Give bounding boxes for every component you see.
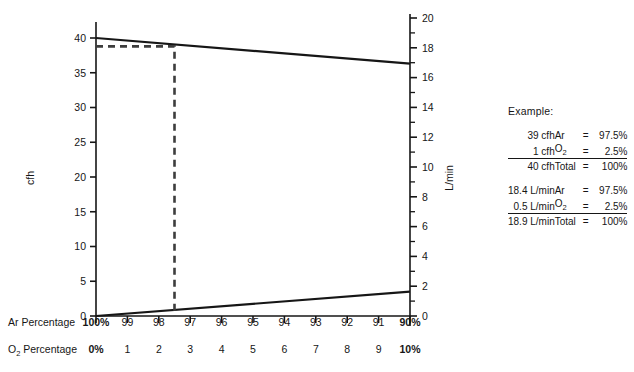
example-percent-sign-cell: % <box>619 142 628 158</box>
flow-chart-figure: 051015202530354002468101214161820 cfhL/m… <box>0 0 634 372</box>
axis-titles: cfhL/min <box>24 165 455 191</box>
example-gas-cell: Ar <box>555 129 583 142</box>
right-tick-label: 14 <box>422 101 434 113</box>
example-total-row: 18.9 L/minTotal=100% <box>508 214 627 229</box>
example-equals-cell: = <box>583 184 589 197</box>
right-tick-label: 4 <box>422 250 428 262</box>
example-gas-cell: Ar <box>555 184 583 197</box>
series-line-oxygen-flow <box>96 292 410 316</box>
example-equals-cell: = <box>583 197 589 213</box>
example-equals-cell: = <box>583 142 589 158</box>
example-value-cell: 2.5 <box>589 197 619 213</box>
ar-percentage-tick-90: 90% <box>390 316 430 328</box>
example-row: 0.5 L/minO2=2.5% <box>508 197 627 213</box>
right-tick-label: 16 <box>422 71 434 83</box>
left-axis-title: cfh <box>24 171 36 185</box>
left-tick-label: 10 <box>74 240 86 252</box>
right-axis-title: L/min <box>443 165 455 191</box>
example-amount-cell: 40 cfh <box>508 159 555 174</box>
series-line-argon-flow <box>96 38 410 64</box>
example-title: Example: <box>508 105 630 117</box>
example-gas-cell: Total <box>555 214 583 229</box>
example-total-row: 40 cfhTotal=100% <box>508 159 627 174</box>
left-tick-label: 40 <box>74 32 86 44</box>
example-amount-cell: 1 cfh <box>508 142 555 158</box>
example-legend: Example: 39 cfhAr=97.5%1 cfhO2=2.5%40 cf… <box>508 105 630 229</box>
left-tick-label: 20 <box>74 171 86 183</box>
example-percent-sign-cell: % <box>619 214 628 229</box>
left-tick-label: 25 <box>74 136 86 148</box>
example-equals-cell: = <box>583 214 589 229</box>
example-percent-sign-cell: % <box>619 129 628 142</box>
example-amount-cell: 18.4 L/min <box>508 184 555 197</box>
left-tick-label: 15 <box>74 206 86 218</box>
example-value-cell: 97.5 <box>589 129 619 142</box>
o2-percentage-tick-row: 0%12345678910% <box>0 343 634 359</box>
example-percent-sign-cell: % <box>619 159 628 174</box>
example-value-cell: 100 <box>589 214 619 229</box>
example-equals-cell: = <box>583 159 589 174</box>
guide-annotation <box>96 46 175 316</box>
data-series-lines <box>96 38 410 316</box>
example-percent-sign-cell: % <box>619 184 628 197</box>
o2-percentage-tick-10: 10% <box>390 343 430 355</box>
example-percent-sign-cell: % <box>619 197 628 213</box>
example-equals-cell: = <box>583 129 589 142</box>
ar-percentage-tick-row: 100%99989796959493929190% <box>0 316 634 332</box>
example-block-spacer <box>508 173 627 184</box>
right-tick-label: 2 <box>422 280 428 292</box>
example-row: 39 cfhAr=97.5% <box>508 129 627 142</box>
example-value-cell: 97.5 <box>589 184 619 197</box>
right-tick-label: 18 <box>422 42 434 54</box>
example-table: 39 cfhAr=97.5%1 cfhO2=2.5%40 cfhTotal=10… <box>508 129 627 229</box>
example-row: 1 cfhO2=2.5% <box>508 142 627 158</box>
axis-tick-labels: 051015202530354002468101214161820 <box>74 12 434 322</box>
example-amount-cell: 0.5 L/min <box>508 197 555 213</box>
example-gas-cell: Total <box>555 159 583 174</box>
right-tick-label: 12 <box>422 131 434 143</box>
example-gas-cell: O2 <box>555 197 583 213</box>
left-tick-label: 30 <box>74 101 86 113</box>
example-guide-line <box>96 46 175 316</box>
example-amount-cell: 18.9 L/min <box>508 214 555 229</box>
left-tick-label: 35 <box>74 67 86 79</box>
example-value-cell: 2.5 <box>589 142 619 158</box>
example-row: 18.4 L/minAr=97.5% <box>508 184 627 197</box>
example-gas-cell: O2 <box>555 142 583 158</box>
example-amount-cell: 39 cfh <box>508 129 555 142</box>
right-tick-label: 20 <box>422 12 434 24</box>
left-tick-label: 5 <box>80 275 86 287</box>
example-value-cell: 100 <box>589 159 619 174</box>
right-tick-label: 6 <box>422 220 428 232</box>
right-tick-label: 8 <box>422 191 428 203</box>
right-tick-label: 10 <box>422 161 434 173</box>
axis-tick-marks <box>90 18 417 323</box>
